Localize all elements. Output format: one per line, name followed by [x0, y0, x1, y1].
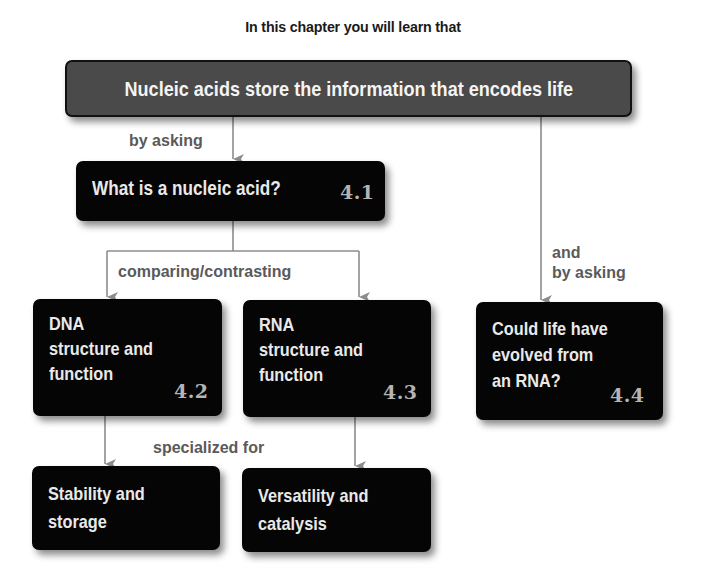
node-4-4-label: Could life have evolved from an RNA?	[492, 316, 608, 394]
node-rna-role: Versatility and catalysis	[242, 468, 431, 552]
node-4-4: Could life have evolved from an RNA? 4.4	[476, 302, 663, 420]
edge-label-and-by-asking: and by asking	[552, 243, 626, 283]
node-4-2: DNA structure and function 4.2	[33, 299, 222, 416]
node-dna-role-label: Stability and storage	[48, 480, 145, 536]
chapter-heading: In this chapter you will learn that	[28, 18, 678, 36]
node-4-2-section: 4.2	[174, 380, 209, 402]
node-4-3-label: RNA structure and function	[259, 312, 363, 387]
node-4-2-label: DNA structure and function	[49, 311, 153, 386]
node-4-3: RNA structure and function 4.3	[243, 300, 431, 417]
edge-label-by-asking: by asking	[129, 131, 203, 151]
edge-label-comparing-contrasting: comparing/contrasting	[118, 262, 291, 282]
concept-map: In this chapter you will learn that Nucl…	[0, 0, 706, 583]
node-4-1: What is a nucleic acid? 4.1	[76, 161, 385, 221]
node-rna-role-label: Versatility and catalysis	[258, 482, 368, 538]
node-4-1-section: 4.1	[340, 181, 375, 203]
node-4-3-section: 4.3	[383, 381, 418, 403]
main-concept-label: Nucleic acids store the information that…	[124, 62, 573, 115]
main-concept-box: Nucleic acids store the information that…	[65, 60, 632, 117]
node-dna-role: Stability and storage	[32, 466, 220, 550]
edge-label-specialized-for: specialized for	[153, 438, 264, 458]
node-4-4-section: 4.4	[610, 384, 645, 406]
node-4-1-label: What is a nucleic acid?	[92, 177, 281, 200]
